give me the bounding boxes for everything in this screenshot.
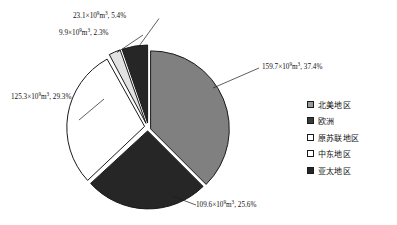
legend-swatch-former-soviet-union (307, 134, 314, 141)
pie-chart-figure: 23.1×109m3, 5.4% 9.9×109m3, 2.3% 159.7×1… (0, 0, 397, 225)
data-label-middle-east: 9.9×109m3, 2.3% (59, 29, 109, 38)
legend-item-former-soviet-union[interactable]: 原苏联地区 (307, 129, 393, 146)
legend-item-asia-pacific[interactable]: 亚太地区 (307, 162, 393, 179)
legend-swatch-europe (307, 117, 314, 124)
legend-swatch-middle-east (307, 150, 314, 157)
leader-line-asia-pacific (138, 19, 159, 48)
legend-label-europe: 欧洲 (318, 115, 334, 126)
legend-item-middle-east[interactable]: 中东地区 (307, 146, 393, 163)
legend-label-north-america: 北美地区 (318, 99, 351, 110)
data-label-north-america: 159.7×109m3, 37.4% (262, 63, 322, 72)
leader-line-north-america (213, 68, 259, 88)
legend-label-former-soviet-union: 原苏联地区 (318, 132, 359, 143)
legend-item-europe[interactable]: 欧洲 (307, 113, 393, 130)
chart-plot-area: 23.1×109m3, 5.4% 9.9×109m3, 2.3% 159.7×1… (0, 0, 300, 225)
legend-swatch-north-america (307, 101, 314, 108)
chart-legend: 北美地区 欧洲 原苏联地区 中东地区 亚太地区 (307, 96, 393, 179)
legend-label-middle-east: 中东地区 (318, 148, 351, 159)
data-label-asia-pacific: 23.1×109m3, 5.4% (73, 12, 126, 21)
legend-swatch-asia-pacific (307, 167, 314, 174)
data-label-former-soviet-union: 125.3×109m3, 29.3% (11, 93, 71, 102)
legend-label-asia-pacific: 亚太地区 (318, 165, 351, 176)
legend-item-north-america[interactable]: 北美地区 (307, 96, 393, 113)
data-label-europe: 109.6×109m3, 25.6% (196, 201, 256, 210)
pie-svg (0, 0, 300, 225)
